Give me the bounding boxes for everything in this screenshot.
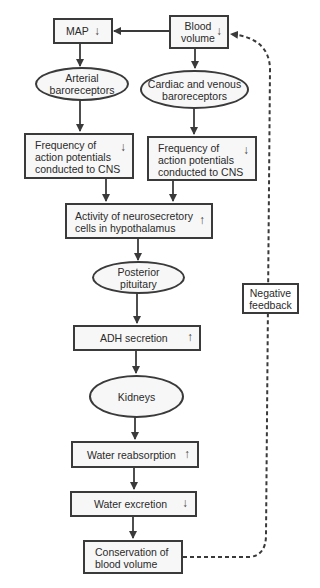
blood-volume-line1: Blood (181, 20, 215, 32)
freq-left-line1: Frequency of (35, 139, 120, 151)
freq-right-line3: conducted to CNS (158, 166, 243, 178)
feedback-line2: feedback (249, 299, 292, 311)
freq-left-line2: action potentials (35, 151, 120, 163)
water-reabsorption-box: Water reabsorption ↑ (71, 441, 199, 468)
excretion-label: Water excretion (94, 498, 167, 510)
freq-right-line1: Frequency of (158, 142, 243, 154)
map-box: MAP ↓ (53, 18, 113, 44)
arterial-line2: baroreceptors (50, 84, 115, 96)
adh-secretion-box: ADH secretion ↑ (73, 325, 201, 351)
freq-right-line2: action potentials (158, 154, 243, 166)
kidneys-label: Kidneys (118, 391, 155, 403)
blood-volume-line2: volume (181, 32, 215, 44)
map-label: MAP (66, 25, 89, 37)
kidneys-ellipse: Kidneys (89, 375, 184, 418)
cardiac-line2: baroreceptors (148, 90, 241, 102)
freq-left-line3: conducted to CNS (35, 163, 120, 175)
pituitary-line1: Posterior (117, 266, 159, 278)
arrow-down-icon: ↓ (120, 141, 126, 153)
arrow-down-icon: ↓ (94, 25, 100, 37)
neuro-line2: cells in hypothalamus (75, 222, 193, 234)
neurosecretory-activity-box: Activity of neurosecretory cells in hypo… (65, 203, 213, 239)
conservation-box: Conservation of blood volume (83, 540, 183, 574)
posterior-pituitary-ellipse: Posterior pituitary (92, 261, 185, 294)
arrow-down-icon: ↓ (243, 144, 249, 156)
water-excretion-box: Water excretion ↓ (70, 491, 197, 517)
feedback-line1: Negative (249, 287, 292, 299)
cardiac-venous-baroreceptors-ellipse: Cardiac and venous baroreceptors (140, 70, 249, 109)
adh-label: ADH secretion (100, 332, 168, 344)
arrow-down-icon: ↓ (216, 25, 222, 37)
neuro-line1: Activity of neurosecretory (75, 210, 193, 222)
arrow-down-icon: ↓ (182, 497, 188, 509)
frequency-right-box: Frequency of action potentials conducted… (147, 136, 257, 181)
arterial-baroreceptors-ellipse: Arterial baroreceptors (35, 67, 129, 101)
pituitary-line2: pituitary (117, 278, 159, 290)
arterial-line1: Arterial (50, 72, 115, 84)
cardiac-line1: Cardiac and venous (148, 78, 241, 90)
frequency-left-box: Frequency of action potentials conducted… (24, 133, 134, 179)
conservation-line2: blood volume (95, 558, 169, 570)
arrow-up-icon: ↑ (187, 331, 193, 343)
blood-volume-box: Blood volume ↓ (169, 15, 229, 49)
arrow-up-icon: ↑ (199, 214, 205, 226)
reabsorption-label: Water reabsorption (87, 449, 176, 461)
arrow-up-icon: ↑ (184, 448, 190, 460)
conservation-line1: Conservation of (95, 546, 169, 558)
negative-feedback-box: Negative feedback (242, 283, 299, 314)
